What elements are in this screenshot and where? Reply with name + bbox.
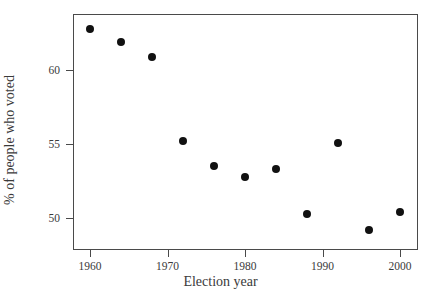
y-axis-tick-label: 60 [27,64,60,76]
y-axis-tick-mark [66,70,73,71]
x-axis-tick-label: 1960 [79,260,102,272]
x-axis-tick-mark [323,250,324,257]
plot-area-frame [73,14,418,250]
x-axis-title: Election year [0,274,441,290]
y-axis-tick-label: 50 [27,212,60,224]
x-axis-tick-label: 1980 [234,260,257,272]
y-axis-tick-mark [66,144,73,145]
data-point [303,210,311,218]
scatter-plot-figure: 505560 19601970198019902000 % of people … [0,0,441,301]
data-point [241,173,249,181]
y-axis-tick-mark [66,218,73,219]
x-axis-tick-label: 1970 [156,260,179,272]
data-point [117,38,125,46]
data-point [179,137,187,145]
x-axis-tick-mark [90,250,91,257]
data-point [148,53,156,61]
y-axis-tick-label: 55 [27,138,60,150]
data-point [365,226,373,234]
data-point [334,139,342,147]
y-axis-title: % of people who voted [2,75,18,205]
data-point [86,25,94,33]
x-axis-tick-mark [168,250,169,257]
x-axis-tick-mark [245,250,246,257]
x-axis-tick-mark [400,250,401,257]
x-axis-tick-label: 2000 [389,260,412,272]
x-axis-tick-label: 1990 [311,260,334,272]
